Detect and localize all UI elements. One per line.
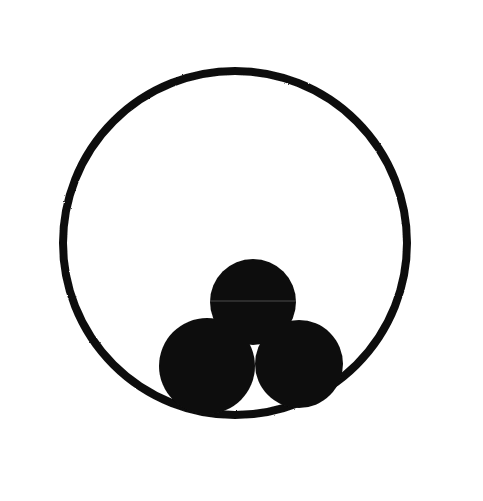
emblem-svg	[0, 0, 483, 501]
emblem-artboard	[0, 0, 483, 501]
page-root: Abstract black-and-white emblem: three o…	[0, 0, 483, 501]
top-disc	[210, 259, 296, 345]
